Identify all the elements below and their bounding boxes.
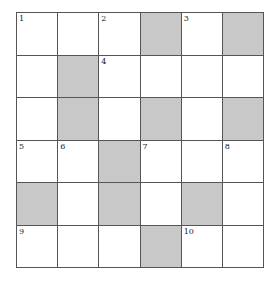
block-cell <box>141 98 182 141</box>
answer-cell[interactable] <box>99 98 140 141</box>
block-cell <box>58 98 99 141</box>
answer-cell[interactable] <box>182 141 223 184</box>
block-cell <box>141 13 182 56</box>
answer-cell[interactable] <box>58 226 99 269</box>
block-cell <box>58 56 99 99</box>
answer-cell[interactable] <box>223 226 264 269</box>
clue-number: 4 <box>101 57 106 66</box>
answer-cell[interactable] <box>182 56 223 99</box>
clue-number: 2 <box>101 14 106 23</box>
answer-cell[interactable] <box>58 13 99 56</box>
block-cell <box>99 183 140 226</box>
answer-cell[interactable] <box>182 98 223 141</box>
clue-number: 7 <box>143 142 148 151</box>
block-cell <box>17 183 58 226</box>
answer-cell[interactable]: 8 <box>223 141 264 184</box>
block-cell <box>223 13 264 56</box>
block-cell <box>223 98 264 141</box>
answer-cell[interactable] <box>17 56 58 99</box>
answer-cell[interactable] <box>58 183 99 226</box>
block-cell <box>182 183 223 226</box>
answer-cell[interactable]: 2 <box>99 13 140 56</box>
clue-number: 3 <box>184 14 189 23</box>
answer-cell[interactable] <box>141 56 182 99</box>
clue-number: 1 <box>19 14 24 23</box>
answer-cell[interactable]: 6 <box>58 141 99 184</box>
answer-cell[interactable] <box>141 183 182 226</box>
answer-cell[interactable] <box>99 226 140 269</box>
crossword-grid: 12345678910 <box>16 12 264 268</box>
answer-cell[interactable]: 7 <box>141 141 182 184</box>
answer-cell[interactable]: 1 <box>17 13 58 56</box>
answer-cell[interactable]: 3 <box>182 13 223 56</box>
clue-number: 5 <box>19 142 24 151</box>
clue-number: 8 <box>225 142 230 151</box>
answer-cell[interactable]: 4 <box>99 56 140 99</box>
answer-cell[interactable] <box>223 56 264 99</box>
clue-number: 10 <box>184 227 194 236</box>
answer-cell[interactable]: 5 <box>17 141 58 184</box>
answer-cell[interactable]: 10 <box>182 226 223 269</box>
clue-number: 9 <box>19 227 24 236</box>
answer-cell[interactable] <box>223 183 264 226</box>
block-cell <box>99 141 140 184</box>
block-cell <box>141 226 182 269</box>
clue-number: 6 <box>60 142 65 151</box>
answer-cell[interactable] <box>17 98 58 141</box>
answer-cell[interactable]: 9 <box>17 226 58 269</box>
